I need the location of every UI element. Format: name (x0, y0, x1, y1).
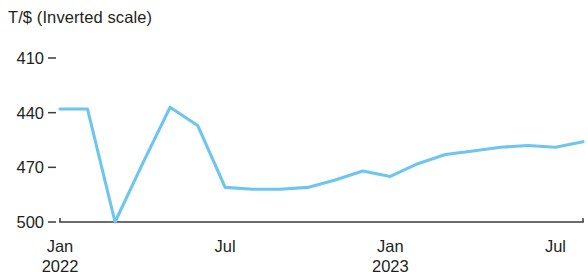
y-axis-tick-label: 410 (16, 49, 44, 67)
data-series-line (60, 107, 583, 222)
y-axis-tick-label: 470 (16, 158, 44, 176)
x-axis-year-label: 2022 (42, 257, 79, 275)
chart-container: T/$ (Inverted scale) 410440470500Jan2022… (0, 0, 588, 275)
line-chart-plot: 410440470500Jan2022JulJan2023Jul (0, 0, 588, 275)
x-axis-tick-label: Jan (47, 237, 74, 255)
x-axis-tick-label: Jul (215, 237, 236, 255)
x-axis-tick-label: Jan (377, 237, 404, 255)
x-axis-year-label: 2023 (372, 257, 409, 275)
x-axis-tick-label: Jul (545, 237, 566, 255)
y-axis-tick-label: 440 (16, 104, 44, 122)
y-axis-tick-label: 500 (16, 213, 44, 231)
